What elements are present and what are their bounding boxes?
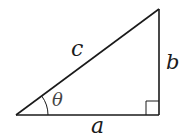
label-angle-theta: θ (52, 91, 63, 109)
label-side-b: b (166, 52, 179, 73)
right-angle-marker (146, 101, 159, 115)
hypotenuse-side-c (16, 9, 159, 115)
label-hypotenuse-c: c (71, 38, 83, 60)
angle-theta-arc (42, 96, 48, 115)
label-side-a: a (91, 115, 104, 134)
